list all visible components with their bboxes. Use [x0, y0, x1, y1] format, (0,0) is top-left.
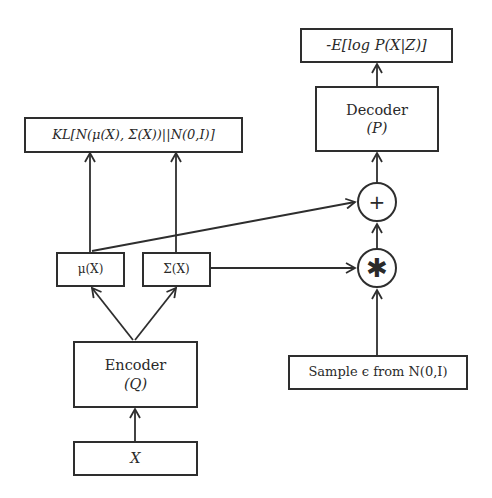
connector-arrows [0, 0, 492, 498]
kl-divergence-label: KL[N(μ(X), Σ(X))||N(0,I)] [52, 127, 215, 143]
multiply-operator-node: ✱ [357, 248, 397, 288]
mu-label: μ(X) [78, 262, 104, 277]
add-operator-node: + [357, 182, 397, 222]
sample-epsilon-box: Sample ϵ from N(0,I) [288, 355, 468, 390]
reconstruction-loss-label: -E[log P(X|Z)] [326, 36, 426, 54]
sample-epsilon-label: Sample ϵ from N(0,I) [308, 364, 447, 380]
decoder-sublabel: (P) [366, 119, 387, 137]
reconstruction-loss-box: -E[log P(X|Z)] [300, 28, 453, 63]
encoder-label: Encoder [105, 356, 167, 374]
asterisk-icon: ✱ [366, 253, 388, 283]
encoder-box: Encoder (Q) [73, 341, 198, 408]
sigma-box: Σ(X) [142, 252, 211, 287]
encoder-sublabel: (Q) [124, 375, 147, 393]
kl-divergence-box: KL[N(μ(X), Σ(X))||N(0,I)] [24, 117, 243, 153]
sigma-label: Σ(X) [163, 262, 189, 277]
input-x-label: X [130, 449, 140, 467]
decoder-label: Decoder [346, 101, 408, 119]
input-x-box: X [73, 441, 198, 476]
plus-icon: + [369, 190, 386, 214]
mu-box: μ(X) [56, 252, 125, 287]
decoder-box: Decoder (P) [315, 86, 439, 152]
